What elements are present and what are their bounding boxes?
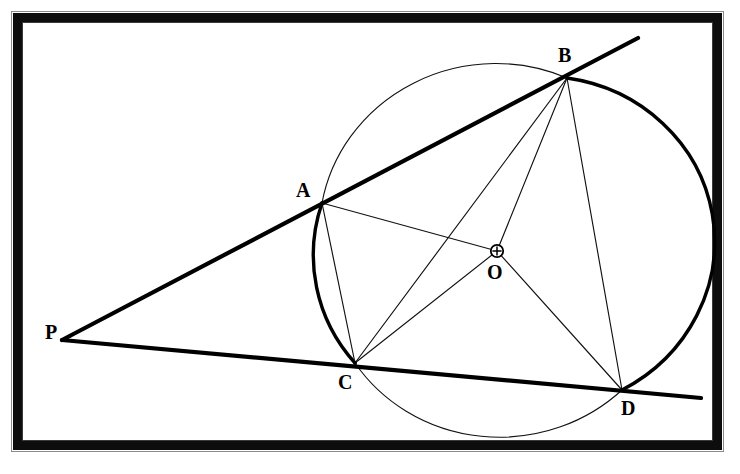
secant-P-A-B [62,38,638,340]
point-label-a: A [296,180,310,200]
vertex-dot-B [565,76,569,80]
radius-OD [497,251,622,390]
center-marker-circled-plus [491,245,503,257]
secant-P-C-D [62,340,701,398]
point-label-b: B [558,45,571,65]
vertex-dot-C [353,361,357,365]
figure-page: P A B C D O [0,0,740,474]
vertex-dot-A [320,201,324,205]
point-label-c: C [338,372,352,392]
radius-OB [497,78,567,251]
arc-B-to-D-right [567,78,715,390]
arc-C-to-A-left [313,203,355,363]
point-label-p: P [45,322,57,342]
point-label-d: D [621,398,635,418]
vertex-dot-D [620,388,624,392]
radius-OA [322,203,497,251]
vertex-dots [68,76,623,392]
vertex-dot-P [68,334,71,337]
secant-lines [62,38,701,398]
point-label-o: O [487,262,503,282]
chord-BD [567,78,622,390]
arc-D-to-C-bottom [355,363,622,437]
